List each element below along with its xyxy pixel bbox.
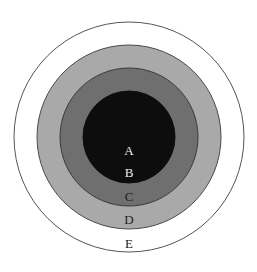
concentric-circles-diagram: A B C D E (0, 0, 257, 272)
label-a: A (124, 143, 134, 158)
label-e: E (125, 236, 133, 251)
label-b: B (125, 165, 134, 180)
label-d: D (124, 212, 133, 227)
label-c: C (125, 189, 134, 204)
